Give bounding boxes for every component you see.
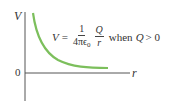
fraction-charge-numerator: Q xyxy=(95,25,104,37)
formula-equals: = xyxy=(62,31,68,43)
potential-formula: V = 1 4πϵ0 Q r when Q > 0 xyxy=(52,24,160,49)
formula-lhs: V xyxy=(52,31,59,43)
epsilon-subscript: 0 xyxy=(87,41,91,49)
fraction-distance-denominator: r xyxy=(97,37,101,48)
y-axis-label: V xyxy=(14,9,21,24)
x-axis-label: r xyxy=(132,66,137,81)
fraction-constant-denominator: 4πϵ0 xyxy=(73,36,91,49)
condition-relation: > 0 xyxy=(146,31,160,43)
fraction-constant: 1 4πϵ0 xyxy=(73,24,91,49)
fraction-constant-numerator: 1 xyxy=(78,24,85,36)
denominator-main: 4πϵ xyxy=(73,36,87,47)
origin-label: 0 xyxy=(15,66,21,78)
graph-svg xyxy=(0,0,175,105)
fraction-charge-distance: Q r xyxy=(95,25,104,48)
potential-vs-distance-diagram: V r 0 V = 1 4πϵ0 Q r when Q > 0 xyxy=(0,0,175,105)
condition-word: when xyxy=(109,31,133,43)
condition-variable: Q xyxy=(136,31,144,43)
